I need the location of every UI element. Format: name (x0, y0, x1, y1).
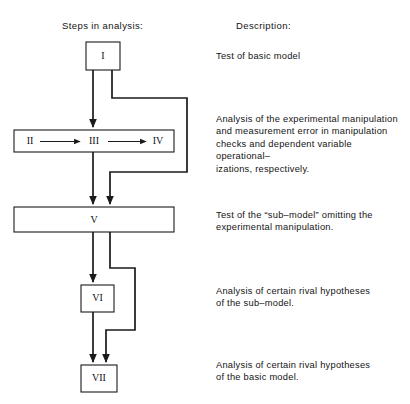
node-label-VII: VII (92, 372, 106, 383)
node-label-VI: VI (92, 292, 103, 303)
description-step-I: Test of basic model (216, 50, 406, 62)
node-label-II: II (27, 135, 34, 146)
description-step-VII: Analysis of certain rival hypotheses of … (216, 359, 406, 384)
node-label-I: I (101, 50, 104, 61)
description-step-II-III-IV: Analysis of the experimental manipulatio… (216, 113, 406, 175)
node-label-III: III (89, 135, 99, 146)
flowchart-page: Steps in analysis: Description: I (0, 0, 410, 404)
node-label-V: V (90, 214, 98, 225)
node-label-IV: IV (153, 135, 164, 146)
description-step-VI: Analysis of certain rival hypotheses of … (216, 285, 406, 310)
description-step-V: Test of the “sub–model” omitting the exp… (216, 209, 406, 234)
